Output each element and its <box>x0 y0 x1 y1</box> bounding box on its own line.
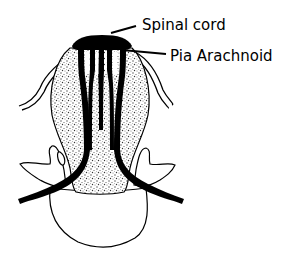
label-spinal-cord: Spinal cord <box>142 16 226 34</box>
spine-cross-section-diagram: Spinal cord Pia Arachnoid <box>0 0 292 260</box>
spinal-cord-leader <box>111 26 136 33</box>
vertebral-body <box>50 188 148 247</box>
label-pia-arachnoid: Pia Arachnoid <box>170 47 273 65</box>
